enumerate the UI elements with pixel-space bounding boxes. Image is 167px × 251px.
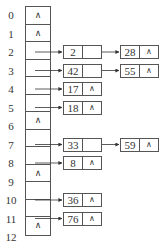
null-pointer-icon: ∧ [140, 65, 158, 77]
node-value: 33 [64, 139, 83, 151]
node-value: 36 [64, 194, 83, 206]
node-pointer [83, 46, 101, 58]
null-pointer-icon: ∧ [83, 83, 101, 95]
null-pointer-icon: ∧ [83, 102, 101, 114]
list-node: 42 [63, 64, 102, 78]
node-value: 42 [64, 65, 83, 77]
list-node: 76 ∧ [63, 212, 102, 226]
list-node: 33 [63, 138, 102, 152]
node-value: 8 [64, 157, 83, 169]
node-pointer [83, 139, 101, 151]
list-node: 55 ∧ [120, 64, 159, 78]
null-pointer-icon: ∧ [140, 139, 158, 151]
node-value: 55 [121, 65, 140, 77]
null-pointer-icon: ∧ [83, 194, 101, 206]
node-value: 17 [64, 83, 83, 95]
list-node: 36 ∧ [63, 193, 102, 207]
list-node: 59 ∧ [120, 138, 159, 152]
list-node: 2 [63, 45, 102, 59]
list-node: 28 ∧ [120, 45, 159, 59]
node-value: 18 [64, 102, 83, 114]
node-value: 76 [64, 213, 83, 225]
null-pointer-icon: ∧ [83, 213, 101, 225]
node-value: 28 [121, 46, 140, 58]
null-pointer-icon: ∧ [83, 157, 101, 169]
list-node: 18 ∧ [63, 101, 102, 115]
node-value: 59 [121, 139, 140, 151]
list-node: 17 ∧ [63, 82, 102, 96]
null-pointer-icon: ∧ [140, 46, 158, 58]
list-node: 8 ∧ [63, 156, 102, 170]
node-value: 2 [64, 46, 83, 58]
node-pointer [83, 65, 101, 77]
